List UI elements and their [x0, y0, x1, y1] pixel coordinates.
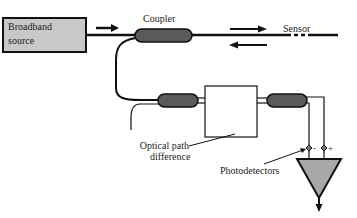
photodetector-minus-icon	[306, 145, 312, 159]
optical-path-label-line2: difference	[150, 151, 191, 162]
coupler-label: Coupler	[143, 13, 176, 24]
detector-plus-label: +	[328, 143, 333, 153]
sensor-label: Sensor	[283, 23, 311, 34]
forward-arrow-icon	[96, 24, 119, 32]
optical-path-difference-box	[198, 86, 267, 137]
coupler-2	[158, 94, 198, 107]
photodetectors-pointer	[264, 150, 303, 164]
source-label-line2: source	[8, 35, 35, 46]
broadband-source: Broadband source	[3, 18, 86, 52]
coupler-3	[267, 94, 307, 107]
optical-path-label-line1: Optical path	[140, 140, 189, 151]
coupler-1: Coupler	[135, 13, 192, 42]
sensor-forward-arrow-icon	[230, 26, 267, 33]
source-label-line1: Broadband	[8, 21, 52, 32]
output-arrow-icon	[316, 204, 323, 212]
unused-port-fiber	[131, 104, 160, 130]
return-fiber	[116, 38, 158, 100]
fiber-sensor-diagram: Broadband source Coupler Sensor	[0, 0, 357, 218]
photodetector-plus-icon	[321, 145, 327, 159]
photodetectors-label: Photodetectors	[220, 165, 280, 176]
detector-minus-label: -	[313, 143, 316, 153]
amplifier-triangle	[297, 159, 341, 212]
sensor-return-arrow-icon	[229, 42, 267, 49]
detector-leads	[305, 97, 324, 146]
